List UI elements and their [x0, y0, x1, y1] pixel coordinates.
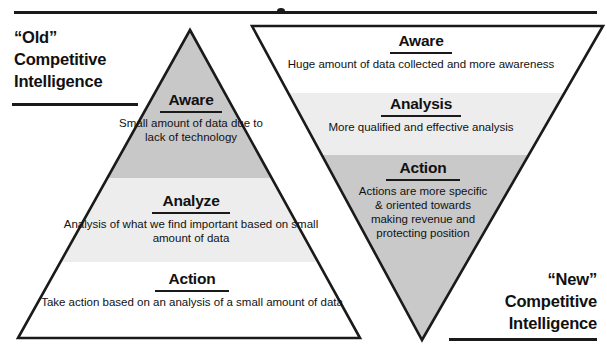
new-competitive-intelligence-caption: “New” Competitive Intelligence: [505, 268, 597, 334]
old-tier-action-rule: [155, 290, 229, 292]
old-tier-aware: Aware Small amount of data due to lack o…: [118, 90, 264, 144]
new-tier-action: Action Actions are more specific & orien…: [357, 158, 489, 240]
old-caption-line-3: Intelligence: [14, 70, 106, 92]
diagram-canvas: “Old” Competitive Intelligence “New” Com…: [0, 0, 607, 354]
old-tier-analyze: Analyze Analysis of what we find importa…: [60, 191, 322, 245]
new-tier-action-body: Actions are more specific & oriented tow…: [357, 184, 489, 240]
old-competitive-intelligence-caption: “Old” Competitive Intelligence: [14, 26, 106, 92]
old-tier-action: Action Take action based on an analysis …: [36, 269, 348, 309]
old-caption-line-2: Competitive: [14, 48, 106, 70]
new-tier-analysis-body: More qualified and effective analysis: [288, 120, 554, 134]
old-tier-action-body: Take action based on an analysis of a sm…: [36, 295, 348, 309]
new-tier-analysis-title: Analysis: [288, 94, 554, 113]
old-tier-aware-rule: [160, 111, 222, 113]
new-tier-aware-title: Aware: [285, 31, 557, 50]
new-tier-aware-rule: [390, 52, 452, 54]
new-tier-analysis: Analysis More qualified and effective an…: [288, 94, 554, 134]
new-caption-line-1: “New”: [505, 268, 597, 290]
old-tier-aware-body: Small amount of data due to lack of tech…: [118, 116, 264, 144]
old-tier-analyze-body: Analysis of what we find important based…: [60, 217, 322, 245]
new-caption-underline: [449, 338, 597, 341]
new-tier-action-title: Action: [357, 158, 489, 177]
old-tier-action-title: Action: [36, 269, 348, 288]
new-tier-analysis-rule: [381, 115, 461, 117]
new-caption-line-3: Intelligence: [505, 312, 597, 334]
old-tier-analyze-rule: [152, 212, 230, 214]
old-caption-line-1: “Old”: [14, 26, 106, 48]
old-tier-aware-title: Aware: [118, 90, 264, 109]
old-tier-analyze-title: Analyze: [60, 191, 322, 210]
new-caption-line-2: Competitive: [505, 290, 597, 312]
new-tier-aware-body: Huge amount of data collected and more a…: [285, 57, 557, 71]
new-tier-action-rule: [386, 179, 460, 181]
new-tier-aware: Aware Huge amount of data collected and …: [285, 31, 557, 71]
